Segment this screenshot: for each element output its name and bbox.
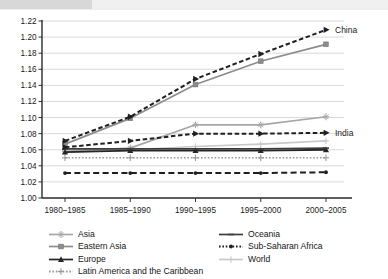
legend-swatch-plus-icon <box>218 254 244 265</box>
legend-item-eastern-asia[interactable]: Eastern Asia <box>48 241 203 254</box>
chart-legend: AsiaEastern AsiaEuropeLatin America and … <box>0 226 388 279</box>
x-tick-label: 2000–2005 <box>306 206 347 215</box>
y-tick-label: 1.12 <box>21 97 37 106</box>
series-point <box>194 171 198 175</box>
series-point <box>128 171 132 175</box>
y-tick-label: 1.02 <box>21 178 37 187</box>
plot-background <box>42 21 344 198</box>
legend-column-right: OceaniaSub-Saharan AfricaWorld <box>218 228 323 266</box>
legend-label: Oceania <box>248 229 280 240</box>
series-oceania <box>62 148 329 149</box>
annotation-label-india: India <box>335 128 354 138</box>
legend-item-europe[interactable]: Europe <box>48 253 203 266</box>
legend-label: Eastern Asia <box>78 241 126 252</box>
legend-swatch-dot-icon <box>218 241 244 252</box>
series-point <box>258 121 264 128</box>
marker-dot <box>229 245 233 249</box>
marker-square <box>193 82 198 87</box>
legend-item-asia[interactable]: Asia <box>48 228 203 241</box>
y-tick-label: 1.00 <box>21 194 37 203</box>
series-point <box>193 82 198 87</box>
legend-swatch-square-icon <box>48 241 74 252</box>
legend-swatch <box>48 266 74 277</box>
legend-item-latin-america-and-the-caribbean[interactable]: Latin America and the Caribbean <box>48 266 203 279</box>
legend-label: Asia <box>78 229 95 240</box>
marker-square <box>258 59 263 64</box>
marker-dot <box>194 171 198 175</box>
marker-square <box>59 244 64 249</box>
line-chart: 1.001.021.041.061.081.101.121.141.161.18… <box>0 10 388 228</box>
legend-swatch-star-icon <box>48 229 74 240</box>
top-decorative-band <box>0 0 388 9</box>
legend-swatch <box>48 229 74 240</box>
legend-marker <box>59 244 64 249</box>
legend-label: Sub-Saharan Africa <box>248 241 323 252</box>
y-tick-label: 1.16 <box>21 65 37 74</box>
legend-swatch-dash-icon <box>218 229 244 240</box>
y-tick-label: 1.14 <box>21 81 37 90</box>
legend-marker <box>58 269 64 275</box>
y-tick-label: 1.10 <box>21 114 37 123</box>
marker-dot <box>259 171 263 175</box>
series-point <box>258 59 263 64</box>
legend-label: World <box>248 254 270 265</box>
series-point <box>323 113 329 120</box>
legend-label: Latin America and the Caribbean <box>78 266 203 277</box>
legend-swatch <box>218 254 244 265</box>
band-segment-left <box>0 0 92 9</box>
y-tick-label: 1.06 <box>21 146 37 155</box>
x-tick-label: 1980–1985 <box>45 206 86 215</box>
x-tick-label: 1985–1990 <box>110 206 151 215</box>
legend-item-world[interactable]: World <box>218 253 323 266</box>
legend-column-left: AsiaEastern AsiaEuropeLatin America and … <box>48 228 203 278</box>
legend-label: Europe <box>78 254 106 265</box>
series-point <box>324 170 328 174</box>
marker-dot <box>324 170 328 174</box>
legend-marker <box>228 256 234 262</box>
series-point <box>324 42 329 47</box>
x-tick-label: 1995–2000 <box>240 206 281 215</box>
marker-dot <box>128 171 132 175</box>
marker-dot <box>63 171 67 175</box>
legend-swatch-triangle-up-icon <box>48 254 74 265</box>
y-tick-label: 1.18 <box>21 49 37 58</box>
legend-item-sub-saharan-africa[interactable]: Sub-Saharan Africa <box>218 241 323 254</box>
chart-canvas: 1.001.021.041.061.081.101.121.141.161.18… <box>0 10 388 228</box>
series-point <box>192 121 198 128</box>
y-tick-label: 1.08 <box>21 130 37 139</box>
legend-marker <box>229 245 233 249</box>
band-segment-right <box>92 0 388 9</box>
series-point <box>63 171 67 175</box>
legend-swatch-plus-icon <box>48 266 74 277</box>
legend-swatch <box>48 254 74 265</box>
marker-square <box>324 42 329 47</box>
legend-swatch <box>218 241 244 252</box>
y-tick-label: 1.04 <box>21 162 37 171</box>
legend-swatch <box>48 241 74 252</box>
legend-marker <box>58 231 64 238</box>
figure-page: 1.001.021.041.061.081.101.121.141.161.18… <box>0 9 388 275</box>
annotation-label-china: China <box>335 25 357 35</box>
legend-swatch <box>218 229 244 240</box>
series-point <box>259 171 263 175</box>
y-tick-label: 1.22 <box>21 17 37 26</box>
legend-item-oceania[interactable]: Oceania <box>218 228 323 241</box>
x-tick-label: 1990–1995 <box>175 206 216 215</box>
y-tick-label: 1.20 <box>21 33 37 42</box>
